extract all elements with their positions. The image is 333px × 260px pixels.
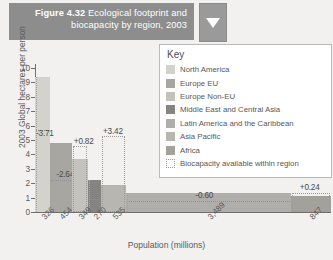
data-label: +0.24 (300, 183, 320, 192)
y-tick-label: 8 (16, 93, 30, 101)
legend-item-label: Latin America and the Caribbean (180, 119, 294, 128)
y-tick-mark (31, 126, 35, 127)
y-tick-mark (31, 169, 35, 170)
legend-item: Middle East and Central Asia (166, 103, 326, 116)
figure-panel: Figure 4.32 Ecological footprint and bio… (0, 0, 333, 260)
legend-item: Europe EU (166, 76, 326, 89)
biocapacity-guide (51, 143, 52, 212)
y-tick-mark (31, 212, 35, 213)
legend-swatch (166, 119, 175, 128)
y-tick-mark (31, 97, 35, 98)
legend-swatch (166, 132, 175, 141)
y-tick-label: 2 (16, 179, 30, 187)
legend-item-label: Biocapacity available within region (180, 159, 299, 168)
legend-item: North America (166, 63, 326, 76)
bar-north-america (35, 77, 50, 212)
y-tick-label: 6 (16, 122, 30, 130)
y-tick-label: 9 (16, 78, 30, 86)
legend-item-label: North America (180, 65, 229, 74)
y-tick-label: 5 (16, 136, 30, 144)
legend-item-label: Europe Non-EU (180, 92, 235, 101)
legend-swatch (166, 146, 175, 155)
y-tick-label: 3 (16, 165, 30, 173)
data-label: +3.42 (103, 127, 123, 136)
legend-item-label: Europe EU (180, 79, 218, 88)
legend-swatch-dotted (166, 159, 175, 168)
legend-item: Asia Pacific (166, 130, 326, 143)
y-tick-mark (31, 183, 35, 184)
biocapacity-guide (36, 77, 37, 212)
biocapacity-box (102, 136, 125, 212)
biocapacity-box (73, 146, 87, 212)
data-label: -0.60 (195, 191, 213, 200)
data-label: -3.71 (36, 129, 54, 138)
biocapacity-box (292, 193, 330, 212)
y-tick-mark (31, 111, 35, 112)
y-axis-ticks: 012345678910 (14, 0, 30, 260)
legend-items: North AmericaEurope EUEurope Non-EUMiddl… (166, 63, 326, 170)
biocapacity-guide (127, 193, 128, 212)
legend-swatch (166, 92, 175, 101)
legend-item: Africa (166, 143, 326, 156)
y-tick-label: 0 (16, 208, 30, 216)
y-tick-mark (31, 154, 35, 155)
legend-swatch (166, 65, 175, 74)
y-tick-mark (31, 140, 35, 141)
biocapacity-line (89, 199, 100, 200)
y-tick-label: 10 (16, 64, 30, 72)
y-tick-label: 4 (16, 150, 30, 158)
legend: Key North AmericaEurope EUEurope Non-EUM… (159, 44, 332, 178)
legend-title: Key (167, 49, 326, 60)
y-tick-mark (31, 82, 35, 83)
legend-swatch (166, 79, 175, 88)
y-tick-mark (31, 198, 35, 199)
y-tick-mark (31, 68, 35, 69)
legend-item-label: Asia Pacific (180, 132, 220, 141)
legend-swatch (166, 105, 175, 114)
legend-item-label: Africa (180, 146, 200, 155)
data-label: +0.82 (74, 137, 94, 146)
legend-item: Europe Non-EU (166, 90, 326, 103)
biocapacity-line (51, 180, 70, 181)
legend-item: Latin America and the Caribbean (166, 117, 326, 130)
legend-item-label: Middle East and Central Asia (180, 105, 280, 114)
x-axis-title: Population (millions) (0, 240, 333, 250)
y-tick-label: 7 (16, 107, 30, 115)
y-tick-label: 1 (16, 194, 30, 202)
biocapacity-line (127, 201, 290, 202)
legend-item: Biocapacity available within region (166, 157, 326, 170)
